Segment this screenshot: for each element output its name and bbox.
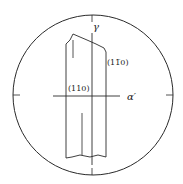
plane-label-110: (110) xyxy=(68,84,90,93)
plane-label-1bar10: (11̅0) xyxy=(107,58,129,67)
projection-circle xyxy=(13,15,173,175)
gamma-axis-label: γ xyxy=(93,21,99,32)
alpha-axis-label: α′ xyxy=(127,91,137,102)
stereographic-diagram: γ α′ (110) (11̅0) xyxy=(0,0,183,184)
